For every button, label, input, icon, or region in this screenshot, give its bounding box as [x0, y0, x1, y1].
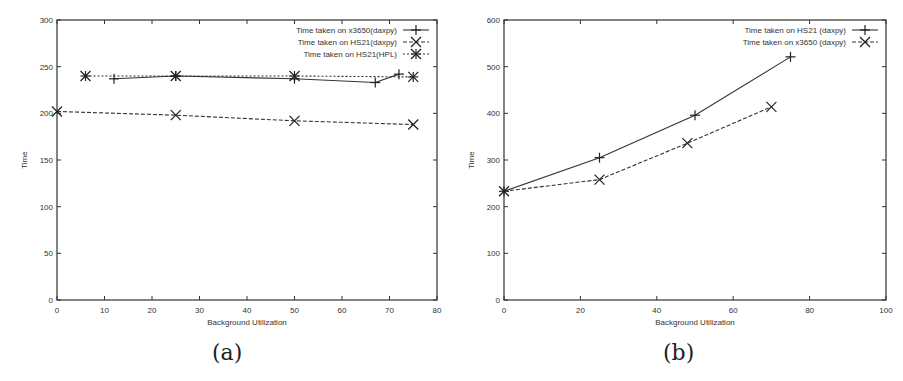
x-tick-label: 80 — [433, 306, 442, 315]
plus-marker-icon — [786, 52, 796, 62]
x-marker-icon — [682, 138, 692, 148]
legend-entry: Time taken on x3650(daxpy) — [296, 25, 429, 35]
y-tick-label: 100 — [40, 203, 54, 212]
legend-label: Time taken on HS21(HPL) — [303, 50, 397, 59]
line-chart-a: 01020304050607080050100150200250300Backg… — [0, 0, 450, 340]
asterisk-marker-icon — [290, 71, 300, 81]
legend-label: Time taken on HS21(daxpy) — [298, 38, 398, 47]
x-tick-label: 0 — [55, 306, 60, 315]
chart-panel-b: 0204060801000100200300400500600Backgroun… — [450, 0, 903, 381]
y-tick-label: 500 — [487, 63, 501, 72]
y-tick-label: 50 — [44, 249, 53, 258]
x-marker-icon — [766, 102, 776, 112]
plus-marker-icon — [109, 74, 119, 84]
series-2 — [81, 71, 419, 82]
x-tick-label: 70 — [385, 306, 394, 315]
y-tick-label: 300 — [40, 16, 54, 25]
y-tick-label: 0 — [49, 296, 54, 305]
legend-label: Time taken on HS21 (daxpy) — [744, 26, 846, 35]
legend-entry: Time taken on x3650 (daxpy) — [743, 37, 878, 47]
x-marker-icon — [408, 120, 418, 130]
legend-entry: Time taken on HS21 (daxpy) — [744, 25, 878, 35]
plus-marker-icon — [394, 69, 404, 79]
x-tick-label: 50 — [290, 306, 299, 315]
y-tick-label: 0 — [496, 296, 501, 305]
x-axis-label: Background Utilization — [207, 318, 287, 327]
x-tick-label: 20 — [576, 306, 585, 315]
y-tick-label: 200 — [487, 203, 501, 212]
x-tick-label: 0 — [502, 306, 507, 315]
y-tick-label: 200 — [40, 109, 54, 118]
series-0 — [109, 69, 404, 87]
x-tick-label: 30 — [195, 306, 204, 315]
y-tick-label: 100 — [487, 249, 501, 258]
chart-caption-a: (a) — [212, 340, 242, 365]
plot-frame — [57, 20, 437, 300]
plus-marker-icon — [370, 78, 380, 88]
plus-marker-icon — [690, 110, 700, 120]
line-chart-b: 0204060801000100200300400500600Backgroun… — [450, 0, 903, 340]
asterisk-marker-icon — [408, 72, 418, 82]
x-axis-label: Background Utilization — [655, 318, 735, 327]
axes: 0204060801000100200300400500600Backgroun… — [467, 16, 893, 327]
chart-caption-b: (b) — [663, 340, 694, 365]
chart-panel-a: 01020304050607080050100150200250300Backg… — [0, 0, 450, 381]
y-tick-label: 250 — [40, 63, 54, 72]
x-tick-label: 40 — [243, 306, 252, 315]
y-tick-label: 300 — [487, 156, 501, 165]
axes: 01020304050607080050100150200250300Backg… — [20, 16, 442, 327]
x-tick-label: 20 — [148, 306, 157, 315]
plus-marker-icon — [860, 25, 870, 35]
legend-entry: Time taken on HS21(daxpy) — [298, 37, 429, 47]
plus-marker-icon — [595, 153, 605, 163]
legend-entry: Time taken on HS21(HPL) — [303, 49, 429, 59]
x-tick-label: 40 — [652, 306, 661, 315]
asterisk-marker-icon — [411, 49, 421, 59]
x-tick-label: 60 — [338, 306, 347, 315]
series-1 — [52, 106, 418, 129]
x-tick-label: 80 — [805, 306, 814, 315]
y-axis-label: Time — [467, 151, 476, 169]
series-1 — [499, 102, 776, 196]
asterisk-marker-icon — [171, 71, 181, 81]
series-0 — [499, 52, 796, 196]
plus-marker-icon — [411, 25, 421, 35]
x-tick-label: 100 — [879, 306, 893, 315]
x-tick-label: 60 — [729, 306, 738, 315]
x-tick-label: 10 — [100, 306, 109, 315]
legend-label: Time taken on x3650(daxpy) — [296, 26, 397, 35]
asterisk-marker-icon — [81, 71, 91, 81]
y-axis-label: Time — [20, 151, 29, 169]
plot-frame — [504, 20, 886, 300]
y-tick-label: 150 — [40, 156, 54, 165]
y-tick-label: 600 — [487, 16, 501, 25]
legend-label: Time taken on x3650 (daxpy) — [743, 38, 847, 47]
y-tick-label: 400 — [487, 109, 501, 118]
